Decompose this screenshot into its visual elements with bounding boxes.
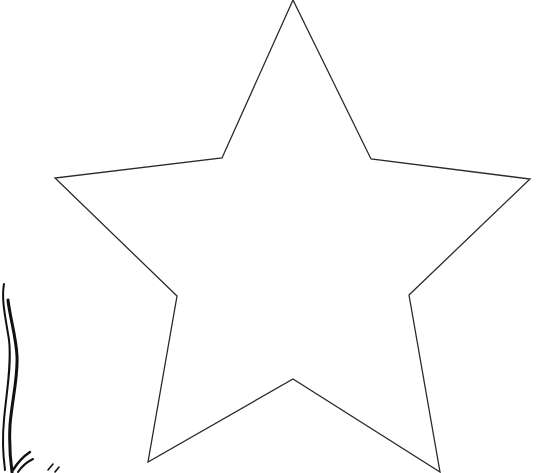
illustration: [0, 0, 538, 473]
